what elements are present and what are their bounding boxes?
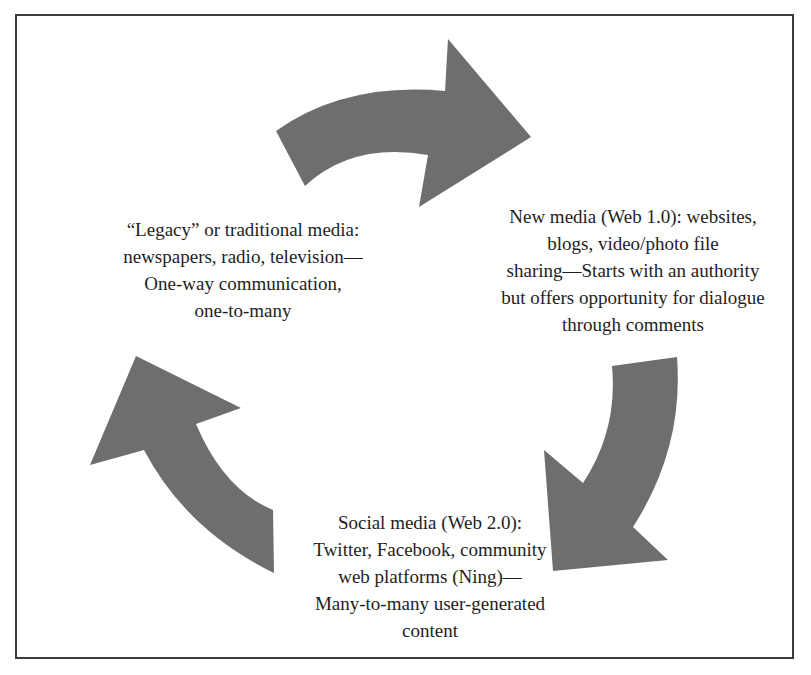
node-line: Many-to-many user-generated [300, 590, 560, 617]
node-line: one-to-many [118, 297, 368, 324]
node-line: blogs, video/photo file [483, 230, 783, 257]
node-new-media: New media (Web 1.0): websites, blogs, vi… [483, 203, 783, 338]
node-line: content [300, 617, 560, 644]
node-line: but offers opportunity for dialogue [483, 284, 783, 311]
node-legacy-media: “Legacy” or traditional media: newspaper… [118, 216, 368, 324]
node-line: One-way communication, [118, 270, 368, 297]
curved-arrow-down-left-icon [544, 357, 678, 571]
node-line: through comments [483, 311, 783, 338]
node-line: Twitter, Facebook, community [300, 536, 560, 563]
node-line: New media (Web 1.0): websites, [483, 203, 783, 230]
node-line: sharing—Starts with an authority [483, 257, 783, 284]
node-line: newspapers, radio, television— [118, 243, 368, 270]
node-line: “Legacy” or traditional media: [118, 216, 368, 243]
node-line: web platforms (Ning)— [300, 563, 560, 590]
curved-arrow-right-icon [276, 39, 531, 207]
node-line: Social media (Web 2.0): [300, 509, 560, 536]
node-social-media: Social media (Web 2.0): Twitter, Faceboo… [300, 509, 560, 644]
curved-arrow-up-left-icon [90, 356, 274, 573]
